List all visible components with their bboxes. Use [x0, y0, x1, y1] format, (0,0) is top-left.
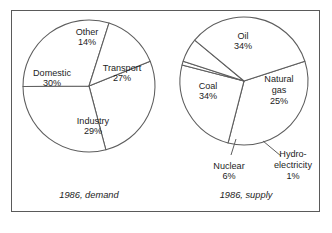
pie-slice-label: Coal34% — [199, 81, 218, 102]
pie-slice-label: Nuclear6% — [213, 161, 244, 182]
pie-slice-label: Other14% — [76, 27, 99, 48]
pie-chart-supply: Oil34%Naturalgas25%Hydro-electricity1%Nu… — [180, 17, 312, 182]
slice-leader-line — [263, 141, 281, 156]
chart-caption: 1986, demand — [59, 190, 119, 200]
figure-root: Transport27%Industry29%Domestic30%Other1… — [0, 0, 332, 233]
chart-caption: 1986, supply — [220, 190, 274, 200]
pie-chart-demand: Transport27%Industry29%Domestic30%Other1… — [23, 20, 155, 152]
pie-charts-canvas: Transport27%Industry29%Domestic30%Other1… — [0, 0, 332, 233]
caption-group: 1986, demand1986, supply — [59, 190, 273, 200]
pie-slice-label: Hydro-electricity1% — [274, 150, 312, 181]
